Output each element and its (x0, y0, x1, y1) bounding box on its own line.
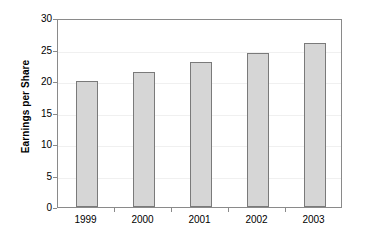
bar-slot (229, 20, 286, 207)
x-tick-label: 2002 (245, 214, 267, 226)
bar-chart-figure: Earnings per Share 051015202530 19992000… (0, 0, 368, 242)
y-tick-label: 0 (12, 203, 52, 213)
x-tick-label: 2001 (188, 214, 210, 226)
y-tick-label: 30 (12, 14, 52, 24)
bar (76, 81, 98, 207)
x-tick-mark (171, 208, 172, 212)
y-tick-label: 25 (12, 46, 52, 56)
x-tick-mark (228, 208, 229, 212)
bar (190, 62, 212, 207)
bar-slot (286, 20, 343, 207)
y-tick-label: 15 (12, 109, 52, 119)
y-axis-ticks: 051015202530 (8, 19, 52, 208)
bar (247, 53, 269, 207)
y-tick-label: 5 (12, 172, 52, 182)
x-tick-mark (285, 208, 286, 212)
x-tick-mark (114, 208, 115, 212)
plot-area (57, 19, 342, 208)
x-axis-labels: 19992000200120022003 (57, 214, 342, 230)
bars-layer (58, 20, 341, 207)
x-axis-ticks (57, 208, 342, 213)
y-tick-label: 20 (12, 77, 52, 87)
bar-slot (115, 20, 172, 207)
bar-slot (172, 20, 229, 207)
x-tick-label: 2003 (302, 214, 324, 226)
bar-slot (58, 20, 115, 207)
bar (133, 72, 155, 207)
bar (304, 43, 326, 207)
x-tick-label: 1999 (74, 214, 96, 226)
y-tick-label: 10 (12, 140, 52, 150)
x-tick-label: 2000 (131, 214, 153, 226)
